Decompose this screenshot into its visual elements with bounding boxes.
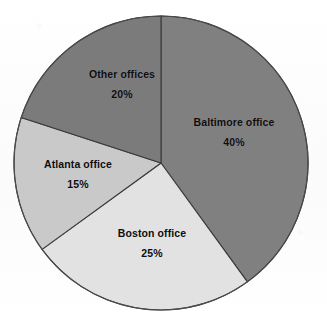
slice-label-percent: 40% <box>194 136 275 149</box>
pie-chart-figure: Baltimore office40%Boston office25%Atlan… <box>0 0 327 323</box>
slice-label-name: Other offices <box>89 68 155 81</box>
slice-label-percent: 25% <box>118 247 186 260</box>
slice-label-percent: 20% <box>89 88 155 101</box>
slice-label-name: Atlanta office <box>44 158 112 171</box>
slice-label-atlanta-office: Atlanta office15% <box>44 158 112 191</box>
slice-label-other-offices: Other offices20% <box>89 68 155 101</box>
slice-label-baltimore-office: Baltimore office40% <box>194 116 275 149</box>
slice-label-percent: 15% <box>44 178 112 191</box>
slice-label-name: Baltimore office <box>194 116 275 129</box>
slice-label-name: Boston office <box>118 227 186 240</box>
slice-label-boston-office: Boston office25% <box>118 227 186 260</box>
